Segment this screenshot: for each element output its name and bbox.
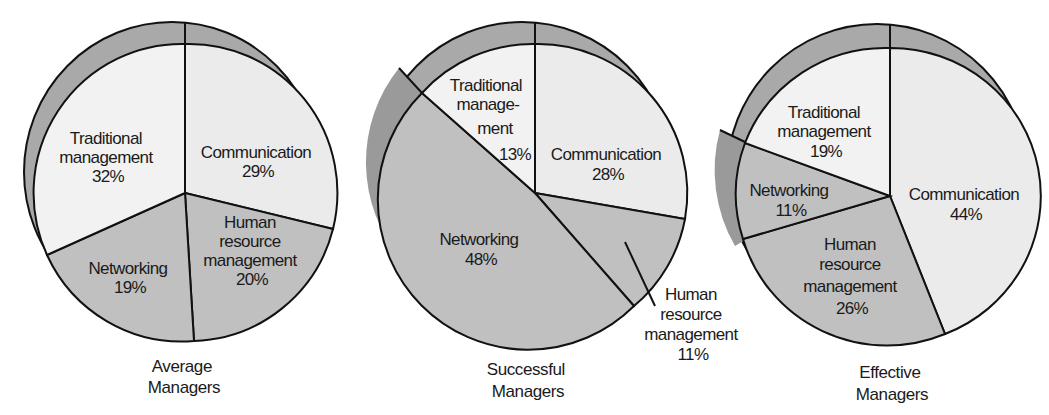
caption-successful-managers: Successful Managers: [487, 360, 570, 401]
pie-successful-managers: Traditional manage- ment 13% Communicati…: [366, 22, 742, 401]
caption-effective-managers: Effective Managers: [856, 363, 928, 404]
slice-communication: [535, 44, 687, 219]
label-human-resource-management: Human resource management 11%: [644, 285, 741, 364]
caption-average-managers: Average Managers: [148, 357, 220, 397]
pie-effective-managers: Traditional management 19% Communication…: [715, 24, 1041, 404]
pie-average-managers: Traditional management 32% Communication…: [24, 22, 337, 397]
pie-charts-figure: Traditional management 32% Communication…: [0, 0, 1049, 415]
